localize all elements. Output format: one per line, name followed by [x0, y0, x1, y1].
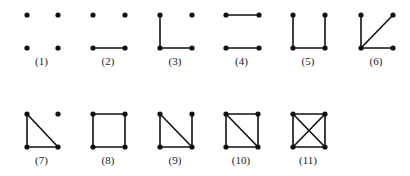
vertex-tl	[358, 12, 363, 17]
graph-label: (5)	[302, 55, 315, 68]
vertex-br	[322, 45, 327, 50]
graph-label: (6)	[370, 55, 383, 68]
graph-9: (9)	[157, 111, 194, 167]
graph-label: (9)	[169, 154, 182, 167]
vertex-br	[322, 144, 327, 149]
graph-label: (1)	[35, 55, 48, 68]
graph-5: (5)	[290, 12, 327, 68]
vertex-tl	[157, 12, 162, 17]
vertex-tr	[55, 12, 60, 17]
vertex-br	[189, 45, 194, 50]
vertex-bl	[358, 45, 363, 50]
vertex-tr	[390, 12, 395, 17]
graph-11: (11)	[290, 111, 327, 167]
vertex-tr	[189, 12, 194, 17]
graph-1: (1)	[24, 12, 60, 68]
vertex-tr	[255, 111, 260, 116]
vertex-br	[122, 45, 127, 50]
edge-tl-br	[226, 114, 258, 147]
graph-7: (7)	[24, 111, 60, 167]
vertex-bl	[290, 144, 295, 149]
vertex-br	[255, 144, 260, 149]
vertex-br	[390, 45, 395, 50]
vertex-bl	[157, 144, 162, 149]
graph-label: (10)	[232, 154, 251, 167]
graph-label: (2)	[102, 55, 115, 68]
vertex-tl	[223, 111, 228, 116]
vertex-tl	[90, 12, 95, 17]
graph-3: (3)	[157, 12, 194, 68]
vertex-tl	[90, 111, 95, 116]
vertex-bl	[24, 144, 29, 149]
vertex-bl	[290, 45, 295, 50]
graph-label: (4)	[235, 55, 248, 68]
vertex-bl	[24, 45, 29, 50]
vertex-bl	[223, 45, 228, 50]
vertex-tl	[24, 111, 29, 116]
vertex-bl	[90, 144, 95, 149]
graph-2: (2)	[90, 12, 127, 68]
graph-label: (8)	[102, 154, 115, 167]
vertex-tr	[322, 111, 327, 116]
vertex-tr	[55, 111, 60, 116]
vertex-tl	[24, 12, 29, 17]
edge-tl-br	[27, 114, 58, 147]
graph-6: (6)	[358, 12, 395, 68]
vertex-bl	[90, 45, 95, 50]
vertex-tr	[256, 12, 261, 17]
vertex-tl	[290, 12, 295, 17]
graph-label: (7)	[35, 154, 48, 167]
vertex-bl	[223, 144, 228, 149]
vertex-br	[256, 45, 261, 50]
vertex-tr	[189, 111, 194, 116]
vertex-br	[55, 45, 60, 50]
edge-bl-tr	[361, 15, 393, 48]
graph-4: (4)	[223, 12, 261, 68]
vertex-tl	[290, 111, 295, 116]
vertex-br	[122, 144, 127, 149]
edge-tl-br	[160, 114, 192, 147]
graph-label: (11)	[299, 154, 317, 167]
vertex-tr	[122, 111, 127, 116]
graph-8: (8)	[90, 111, 127, 167]
vertex-tr	[122, 12, 127, 17]
vertex-tl	[223, 12, 228, 17]
graph-10: (10)	[223, 111, 260, 167]
vertex-br	[189, 144, 194, 149]
vertex-bl	[157, 45, 162, 50]
vertex-tl	[157, 111, 162, 116]
graph-diagram: (1)(2)(3)(4)(5)(6)(7)(8)(9)(10)(11)	[0, 0, 410, 176]
vertex-tr	[322, 12, 327, 17]
vertex-br	[55, 144, 60, 149]
graph-label: (3)	[169, 55, 182, 68]
